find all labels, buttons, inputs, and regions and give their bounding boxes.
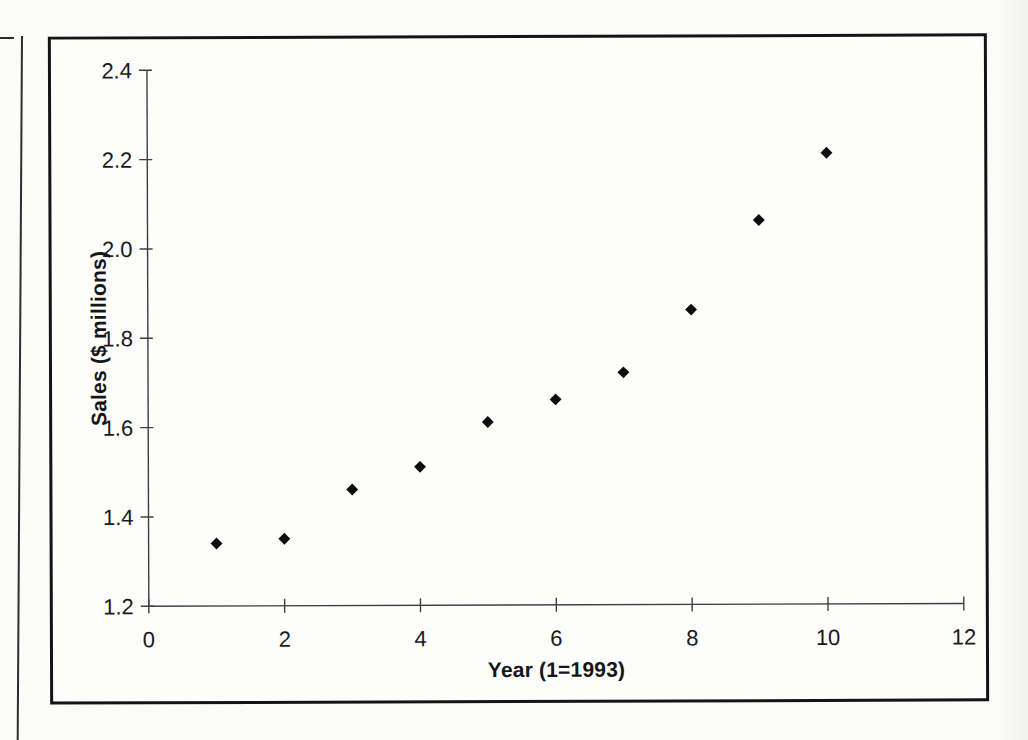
- plot-area: 2.42.22.01.81.61.41.2024681012: [0, 0, 1028, 740]
- x-tick-label: 8: [686, 625, 698, 650]
- data-point-diamond: [346, 484, 358, 496]
- y-tick-label: 1.2: [103, 594, 134, 619]
- scatter-chart: 2.42.22.01.81.61.41.2024681012 Year (1=1…: [0, 0, 1028, 740]
- x-tick-label: 2: [279, 627, 291, 652]
- y-tick-label: 2.4: [101, 58, 132, 83]
- scanned-page: 2.42.22.01.81.61.41.2024681012 Year (1=1…: [0, 0, 1028, 740]
- data-point-diamond: [414, 461, 426, 473]
- data-point-diamond: [278, 533, 290, 545]
- x-tick-label: 10: [816, 625, 841, 650]
- x-tick-label: 0: [143, 627, 155, 652]
- x-tick-label: 6: [550, 626, 562, 651]
- data-point-diamond: [685, 304, 697, 316]
- x-tick-label: 4: [414, 626, 426, 651]
- data-point-diamond: [550, 393, 562, 405]
- x-tick-label: 12: [952, 624, 977, 649]
- data-point-diamond: [482, 416, 494, 428]
- data-point-diamond: [211, 538, 223, 550]
- y-axis-title: Sales ($ millions): [86, 138, 113, 538]
- data-point-diamond: [617, 366, 629, 378]
- data-point-diamond: [753, 214, 765, 226]
- data-point-diamond: [821, 147, 833, 159]
- x-axis-title: Year (1=1993): [149, 656, 964, 685]
